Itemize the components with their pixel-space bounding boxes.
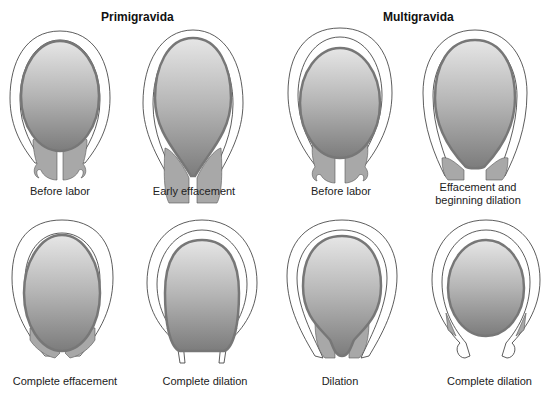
caption-multigravida-effacement-line1: Effacement and <box>428 181 528 194</box>
diagram-primigravida-before-labor <box>5 28 115 178</box>
caption-primigravida-complete-effacement: Complete effacement <box>5 375 125 388</box>
diagram-multigravida-complete-dilation <box>430 218 542 368</box>
diagram-multigravida-effacement-beginning-dilation <box>420 28 530 178</box>
caption-multigravida-dilation: Dilation <box>310 375 370 388</box>
diagram-primigravida-complete-effacement <box>10 218 115 368</box>
group-title-multigravida: Multigravida <box>383 10 454 24</box>
group-title-primigravida: Primigravida <box>101 10 174 24</box>
caption-primigravida-early-effacement: Early effacement <box>146 185 242 198</box>
caption-multigravida-complete-dilation: Complete dilation <box>437 375 542 388</box>
diagram-multigravida-before-labor <box>285 25 395 175</box>
caption-multigravida-effacement-line2: beginning dilation <box>428 194 528 207</box>
diagram-multigravida-dilation <box>285 218 400 368</box>
caption-primigravida-complete-dilation: Complete dilation <box>150 375 260 388</box>
diagram-primigravida-early-effacement <box>143 28 243 178</box>
caption-multigravida-before-labor: Before labor <box>296 185 386 198</box>
caption-primigravida-before-labor: Before labor <box>15 185 105 198</box>
diagram-primigravida-complete-dilation <box>145 218 260 368</box>
